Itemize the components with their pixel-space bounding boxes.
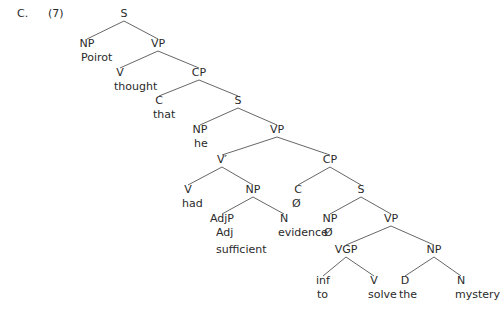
tree-branch <box>199 80 238 96</box>
tree-node-d1: D <box>401 275 409 287</box>
tree-leaf-extra: Adj <box>216 227 233 239</box>
tree-branch <box>120 51 158 68</box>
tree-node-vp2: VP <box>270 124 284 136</box>
tree-node-s3: S <box>358 184 365 196</box>
tree-leaf-word: Ø <box>324 227 333 239</box>
tree-node-vgp: VGP <box>335 244 358 256</box>
tree-branch <box>159 80 199 96</box>
tree-branch <box>188 167 222 185</box>
tree-leaf-word: mystery <box>455 289 500 301</box>
tree-leaf-word: Ø <box>292 198 301 210</box>
tree-node-s1: S <box>121 8 128 20</box>
tree-branch <box>330 167 361 185</box>
tree-node-inf: inf <box>316 275 330 287</box>
tree-node-c2: C <box>294 184 302 196</box>
tree-node-cp2: CP <box>323 154 337 166</box>
tree-node-s2: S <box>235 95 242 107</box>
tree-leaf-word: solve <box>368 289 397 301</box>
tree-leaf-word: Poirot <box>81 52 112 64</box>
tree-node-vbar: V′ <box>217 154 227 166</box>
tree-node-np4: NP <box>323 213 338 225</box>
tree-leaf-word: to <box>317 289 328 301</box>
tree-node-cp1: CP <box>192 67 206 79</box>
tree-node-v2: V <box>184 184 192 196</box>
tree-node-n1: N <box>280 213 288 225</box>
tree-node-c1: C <box>155 95 163 107</box>
tree-node-n2: N <box>457 275 465 287</box>
tree-leaf-word: that <box>153 109 175 121</box>
tree-node-adjp: AdjP <box>210 213 234 225</box>
tree-leaf-word: had <box>182 198 203 210</box>
tree-node-np1: NP <box>80 38 95 50</box>
tree-leaf-extra: sufficient <box>216 244 267 256</box>
tree-branch <box>405 257 434 276</box>
tree-branch <box>222 137 277 155</box>
tree-leaf-word: the <box>399 289 417 301</box>
tree-node-v3: V <box>370 275 378 287</box>
tree-branch <box>298 167 330 185</box>
tree-node-vp1: VP <box>151 38 165 50</box>
tree-node-vp3: VP <box>384 213 398 225</box>
tree-leaf-word: evidence <box>278 227 328 239</box>
tree-leaf-word: he <box>194 138 208 150</box>
tree-node-np2: NP <box>193 124 208 136</box>
tree-leaf-word: thought <box>114 81 157 93</box>
tree-node-v1: V <box>116 67 124 79</box>
tree-node-np3: NP <box>246 184 261 196</box>
tree-node-np5: NP <box>427 244 442 256</box>
